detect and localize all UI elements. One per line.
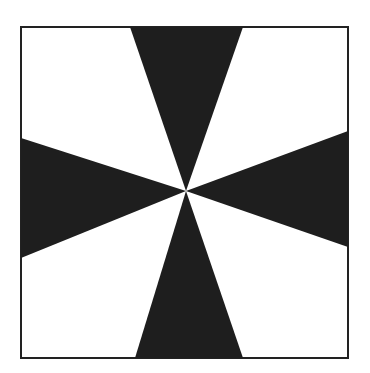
cross-diagram bbox=[0, 0, 370, 373]
